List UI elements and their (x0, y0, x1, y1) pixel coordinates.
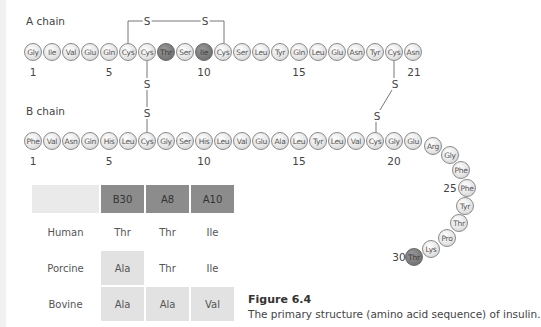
residue-bead: Glu (252, 132, 270, 150)
position-number: 15 (292, 155, 305, 167)
position-number: 5 (106, 66, 113, 78)
residue-bead: Lys (422, 240, 440, 258)
sulfur-label: S (143, 15, 152, 27)
sulfur-label: S (201, 15, 210, 27)
residue-bead: Phe (24, 132, 42, 150)
residue-bead: Asn (347, 43, 365, 61)
residue-bead: Ser (233, 43, 251, 61)
residue-bead: Tyr (309, 132, 327, 150)
residue-bead: Asn (404, 43, 422, 61)
sulfur-label: S (373, 110, 382, 122)
residue-bead: Leu (214, 132, 232, 150)
position-number: 20 (387, 155, 400, 167)
residue-bead: Cys (385, 43, 403, 61)
residue-bead: Tyr (271, 43, 289, 61)
position-number: 1 (30, 66, 37, 78)
residue-bead: Tyr (366, 43, 384, 61)
residue-bead: Leu (119, 132, 137, 150)
residue-bead: Ser (176, 43, 194, 61)
table-row: Bovine Ala Ala Val (32, 287, 234, 321)
residue-bead: Phe (458, 179, 476, 197)
residue-bead: Arg (424, 137, 442, 155)
position-number: 1 (30, 155, 37, 167)
sulfur-label: S (143, 107, 152, 119)
residue-bead: Leu (290, 132, 308, 150)
position-number: 25 (443, 182, 456, 194)
species-label: Porcine (32, 251, 99, 285)
residue-bead: Leu (252, 43, 270, 61)
table-cell: Ile (191, 251, 234, 285)
table-cell: Thr (146, 251, 189, 285)
residue-bead: Val (62, 43, 80, 61)
sulfur-label: S (391, 78, 400, 90)
table-header: A10 (191, 185, 234, 213)
residue-bead: Gly (24, 43, 42, 61)
residue-bead: Val (43, 132, 61, 150)
residue-bead: Phe (452, 161, 470, 179)
species-comparison-table: B30 A8 A10 Human Thr Thr Ile Porcine Ala… (30, 183, 236, 323)
residue-bead: Gly (157, 132, 175, 150)
residue-bead: Gln (100, 43, 118, 61)
table-cell-highlighted: Ala (101, 287, 144, 321)
position-number: 10 (197, 155, 210, 167)
residue-bead: Ser (176, 132, 194, 150)
residue-bead: Ala (271, 132, 289, 150)
b-chain-label: B chain (26, 105, 65, 117)
residue-bead: Cys (138, 43, 156, 61)
residue-bead: His (195, 132, 213, 150)
sulfur-label: S (143, 78, 152, 90)
table-cell: Thr (146, 215, 189, 249)
residue-bead: Cys (138, 132, 156, 150)
table-cell-highlighted: Ala (101, 251, 144, 285)
figure-caption: The primary structure (amino acid sequen… (248, 308, 541, 320)
residue-bead: Cys (366, 132, 384, 150)
residue-bead: Glu (328, 43, 346, 61)
residue-bead: Thr (450, 214, 468, 232)
table-header: B30 (101, 185, 144, 213)
residue-bead: Cys (214, 43, 232, 61)
table-corner (32, 185, 99, 213)
residue-bead: Cys (119, 43, 137, 61)
residue-bead: Gln (81, 132, 99, 150)
residue-bead: Val (233, 132, 251, 150)
position-number: 5 (106, 155, 113, 167)
residue-bead-highlighted: Ile (195, 43, 213, 61)
residue-bead: His (100, 132, 118, 150)
residue-bead-highlighted: Thr (157, 43, 175, 61)
residue-bead: Leu (309, 43, 327, 61)
table-row: Human Thr Thr Ile (32, 215, 234, 249)
table-cell: Ile (191, 215, 234, 249)
residue-bead: Gly (385, 132, 403, 150)
table-cell: Thr (101, 215, 144, 249)
position-number: 21 (407, 66, 420, 78)
residue-bead-highlighted: Thr (405, 248, 423, 266)
table-cell-highlighted: Ala (146, 287, 189, 321)
position-number: 10 (197, 66, 210, 78)
position-number: 30 (392, 251, 405, 263)
species-label: Bovine (32, 287, 99, 321)
table-cell-highlighted: Val (191, 287, 234, 321)
residue-bead: Ile (43, 43, 61, 61)
species-label: Human (32, 215, 99, 249)
residue-bead: Leu (328, 132, 346, 150)
position-number: 15 (292, 66, 305, 78)
figure-title: Figure 6.4 (248, 293, 311, 306)
residue-bead: Tyr (456, 197, 474, 215)
residue-bead: Pro (438, 229, 456, 247)
table-header-row: B30 A8 A10 (32, 185, 234, 213)
residue-bead: Glu (404, 132, 422, 150)
residue-bead: Asn (62, 132, 80, 150)
table-header: A8 (146, 185, 189, 213)
table-row: Porcine Ala Thr Ile (32, 251, 234, 285)
residue-bead: Glu (81, 43, 99, 61)
residue-bead: Val (347, 132, 365, 150)
a-chain-label: A chain (26, 15, 65, 27)
residue-bead: Gln (290, 43, 308, 61)
